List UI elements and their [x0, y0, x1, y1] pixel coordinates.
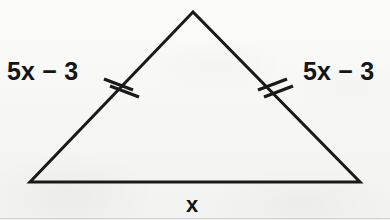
base-length-label: x [186, 192, 198, 218]
triangle-drawing [0, 0, 390, 220]
left-side-length-label: 5x − 3 [7, 57, 78, 86]
right-side-length-label: 5x − 3 [303, 57, 374, 86]
geometry-figure: 5x − 3 5x − 3 x [0, 0, 390, 220]
triangle-outline [30, 12, 360, 182]
